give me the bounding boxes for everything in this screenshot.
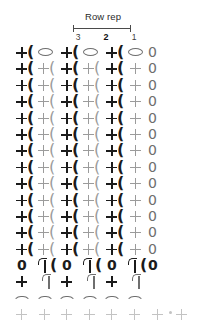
plus-icon: [61, 80, 72, 91]
stitch-row: [0, 306, 201, 322]
plus-icon: [16, 145, 27, 156]
single-crochet-icon: [61, 126, 72, 142]
single-crochet-icon: [130, 224, 141, 240]
plus-icon: [16, 80, 27, 91]
single-crochet-icon: [83, 142, 94, 158]
chain-zero-icon: 0: [148, 44, 157, 60]
oval-icon: [83, 48, 98, 56]
hook-stem: [89, 260, 91, 273]
single-crochet-icon: [130, 192, 141, 208]
plus-icon: [61, 113, 72, 124]
plus-icon: [130, 63, 141, 74]
hook-curl: [38, 258, 47, 265]
single-crochet-icon: [106, 142, 117, 158]
single-crochet-icon: [106, 175, 117, 191]
plus-icon: [61, 96, 72, 107]
half-stitch-hook-icon: (: [140, 257, 147, 273]
plus-icon: [83, 195, 94, 206]
paren-icon: (: [95, 257, 102, 273]
plus-icon: [130, 113, 141, 124]
chain-space-arc-icon: [58, 290, 76, 306]
plus-icon: [61, 244, 72, 255]
zero-glyph: 0: [148, 241, 157, 257]
chain-zero-icon: 0: [148, 60, 157, 76]
plus-icon: [16, 178, 27, 189]
chain-zero-icon: 0: [148, 126, 157, 142]
single-crochet-icon: [83, 241, 94, 257]
single-crochet-icon: [38, 93, 49, 109]
stitch-row: [0, 290, 201, 306]
arc-icon: [103, 296, 121, 304]
single-crochet-icon: [61, 208, 72, 224]
single-crochet-icon: [83, 175, 94, 191]
plus-icon: [106, 276, 117, 287]
single-crochet-icon: [16, 77, 27, 93]
row-rep-label: Row rep: [73, 11, 133, 22]
chain-zero-icon: 0: [148, 241, 157, 257]
plus-icon: [83, 80, 94, 91]
plus-icon: [16, 227, 27, 238]
plus-icon: [106, 129, 117, 140]
chain-zero-icon: 0: [148, 93, 157, 109]
single-crochet-icon: [38, 142, 49, 158]
single-crochet-icon: [38, 175, 49, 191]
bracket-tick-right: [130, 25, 131, 32]
single-crochet-icon: [130, 208, 141, 224]
plus-icon: [16, 276, 27, 287]
paren-icon: (: [117, 241, 124, 257]
plus-icon: [83, 211, 94, 222]
plus-icon: [83, 244, 94, 255]
plus-icon: [106, 309, 117, 320]
single-crochet-icon: [130, 142, 141, 158]
plus-icon: [176, 309, 187, 320]
plus-icon: [38, 63, 49, 74]
chain-zero-icon: 0: [148, 142, 157, 158]
plus-icon: [38, 96, 49, 107]
single-crochet-icon: [16, 110, 27, 126]
single-crochet-icon: [130, 93, 141, 109]
plus-icon: [83, 96, 94, 107]
single-crochet-icon: [61, 77, 72, 93]
zero-glyph: 0: [148, 224, 157, 240]
plus-icon: [83, 227, 94, 238]
plus-icon: [16, 47, 27, 58]
arc-icon: [13, 296, 31, 304]
single-crochet-icon: [83, 110, 94, 126]
single-crochet-icon: [106, 110, 117, 126]
zero-glyph: 0: [148, 142, 157, 158]
plus-icon: [106, 244, 117, 255]
plus-icon: [130, 129, 141, 140]
single-crochet-icon: [16, 192, 27, 208]
repeat-number-3: 3: [70, 32, 86, 42]
crochet-stitch-chart: Row rep 321 (((0(((((0(((((0(((((0(((((0…: [0, 0, 201, 326]
plus-icon: [16, 96, 27, 107]
plus-icon: [106, 227, 117, 238]
plus-icon: [129, 309, 140, 320]
zero-glyph: 0: [62, 257, 72, 273]
single-crochet-icon: [176, 306, 187, 322]
single-crochet-icon: [38, 126, 49, 142]
single-crochet-icon: [106, 159, 117, 175]
repeat-number-2: 2: [98, 32, 114, 42]
chain-zero-icon: 0: [148, 110, 157, 126]
zero-glyph: 0: [148, 257, 158, 273]
single-crochet-icon: [83, 60, 94, 76]
single-crochet-icon: [16, 126, 27, 142]
plus-icon: [38, 113, 49, 124]
half-stitch-hook-icon: (: [117, 241, 124, 257]
single-crochet-icon: [61, 273, 72, 289]
plus-icon: [38, 244, 49, 255]
plus-icon: [61, 276, 72, 287]
single-crochet-icon: [61, 110, 72, 126]
single-crochet-icon: [83, 208, 94, 224]
single-crochet-icon: [16, 241, 27, 257]
single-crochet-icon: [16, 273, 27, 289]
single-crochet-icon: [106, 192, 117, 208]
plus-icon: [106, 113, 117, 124]
single-crochet-icon: [106, 93, 117, 109]
single-crochet-icon: [106, 126, 117, 142]
chain-zero-icon: 0: [148, 208, 157, 224]
single-crochet-icon: [16, 175, 27, 191]
plus-icon: [61, 309, 72, 320]
chain-zero-icon: 0: [148, 257, 158, 273]
